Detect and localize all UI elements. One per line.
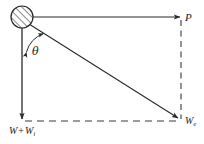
label-We-subscript: e: [193, 120, 196, 127]
label-Wi-subscript: i: [33, 130, 35, 137]
force-diagram-figure: P We W+Wi θ: [0, 0, 204, 144]
hatched-circle-body: [11, 6, 33, 28]
label-plus-operator: +: [17, 125, 25, 136]
resultant-diagonal-vector: [29, 24, 178, 118]
label-angle-theta: θ: [32, 46, 39, 57]
label-applied-force-P: P: [185, 12, 192, 23]
label-total-weight: W+Wi: [9, 126, 35, 137]
label-effective-weight-We: We: [185, 116, 196, 127]
figure-canvas: [0, 0, 204, 144]
